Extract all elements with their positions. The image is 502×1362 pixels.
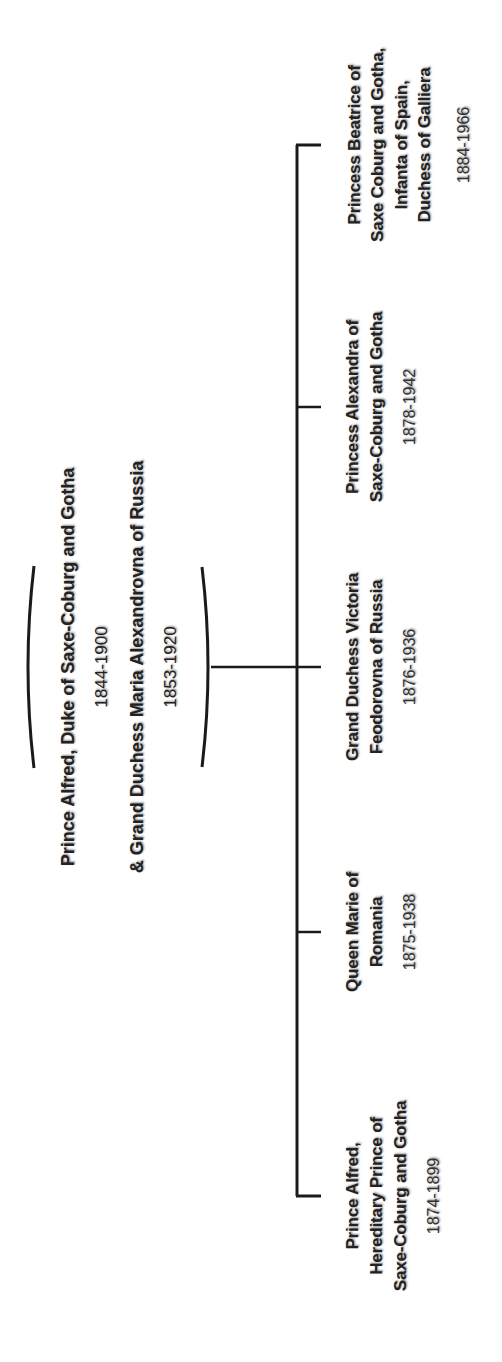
child-5-dates: 1884-1966	[452, 107, 476, 184]
child-3-name-line-1: Grand Duchess Victoria	[341, 573, 365, 761]
child-3-dates: 1876-1936	[398, 629, 422, 706]
child-5-name-line-1: Princess Beatrice of	[343, 65, 367, 224]
father-dates: 1844-1900	[90, 626, 114, 707]
child-2-name-line-2: Romania	[365, 897, 389, 967]
child-2-dates: 1875-1938	[398, 894, 422, 971]
child-3-name-line-2: Feodorovna of Russia	[365, 580, 389, 755]
child-1-name-line-1: Prince Alfred,	[341, 1142, 365, 1249]
child-5-name-line-3: Infanta of Spain,	[390, 81, 414, 210]
child-1-dates: 1874-1899	[422, 1158, 446, 1235]
child-1-name-line-3: Saxe-Coburg and Gotha	[389, 1101, 413, 1291]
child-4-name-line-2: Saxe-Coburg and Gotha	[365, 312, 389, 502]
family-tree-diagram: Prince Alfred, Duke of Saxe-Coburg and G…	[0, 0, 502, 1362]
mother-name: & Grand Duchess Maria Alexandrovna of Ru…	[125, 461, 149, 873]
child-4-dates: 1878-1942	[398, 369, 422, 446]
child-5-name-line-4: Duchess of Galliera	[413, 68, 437, 223]
child-1-name-line-2: Hereditary Prince of	[365, 1117, 389, 1275]
child-2-name-line-1: Queen Marie of	[341, 872, 365, 992]
marriage-bracket-left	[28, 566, 34, 768]
child-5-name-line-2: Saxe Coburg and Gotha,	[366, 48, 390, 242]
mother-dates: 1853-1920	[159, 626, 183, 707]
child-4-name-line-1: Princess Alexandra of	[341, 320, 365, 494]
marriage-bracket-right	[202, 567, 208, 767]
father-name: Prince Alfred, Duke of Saxe-Coburg and G…	[56, 468, 80, 866]
